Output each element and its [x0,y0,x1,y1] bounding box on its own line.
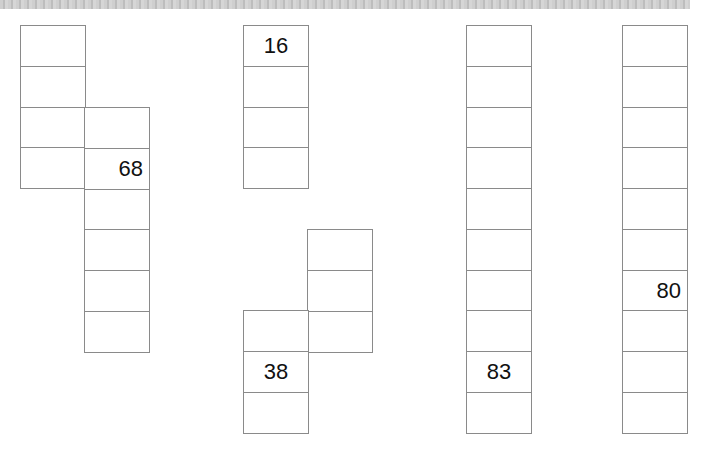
empty-cell [622,147,688,189]
empty-cell [622,107,688,149]
cell-number: 16 [264,33,288,59]
empty-cell [622,229,688,271]
number-cell: 80 [622,270,688,312]
empty-cell [84,107,150,149]
empty-cell [307,270,373,312]
empty-cell [20,147,86,189]
empty-cell [20,107,86,149]
empty-cell [84,189,150,231]
empty-cell [466,310,532,352]
empty-cell [466,66,532,108]
empty-cell [20,25,86,67]
empty-cell [622,188,688,230]
empty-cell [466,147,532,189]
empty-cell [466,107,532,149]
empty-cell [84,311,150,353]
empty-cell [243,310,309,352]
cell-number: 80 [657,278,681,304]
number-cell: 83 [466,351,532,393]
empty-cell [243,147,309,189]
empty-cell [466,229,532,271]
empty-cell [243,66,309,108]
empty-cell [622,351,688,393]
cell-number: 68 [119,156,143,182]
empty-cell [622,66,688,108]
empty-cell [622,392,688,434]
number-cell: 16 [243,25,309,67]
top-texture-strip [0,0,690,9]
cell-number: 83 [487,359,511,385]
number-cell: 38 [243,351,309,393]
empty-cell [243,392,309,434]
empty-cell [84,229,150,271]
empty-cell [243,107,309,149]
empty-cell [466,392,532,434]
empty-cell [84,270,150,312]
empty-cell [466,270,532,312]
empty-cell [466,25,532,67]
empty-cell [622,310,688,352]
empty-cell [622,25,688,67]
number-cell: 68 [84,148,150,190]
empty-cell [20,66,86,108]
empty-cell [466,188,532,230]
empty-cell [307,229,373,271]
empty-cell [307,311,373,353]
cell-number: 38 [264,359,288,385]
